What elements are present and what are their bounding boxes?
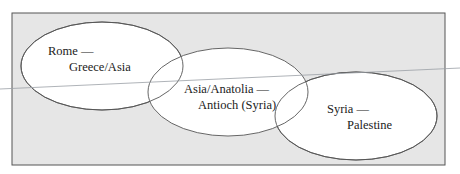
asia-label-line1: Asia/Anatolia — — [184, 82, 270, 96]
rome-label-line2: Greece/Asia — [69, 60, 131, 74]
overlap-diagram: Rome — Greece/Asia Asia/Anatolia — Antio… — [0, 0, 460, 174]
syria-label-line2: Palestine — [347, 118, 393, 132]
syria-label-line1: Syria — — [327, 102, 370, 116]
asia-label-line2: Antioch (Syria) — [198, 98, 276, 112]
rome-label-line1: Rome — — [48, 44, 94, 58]
